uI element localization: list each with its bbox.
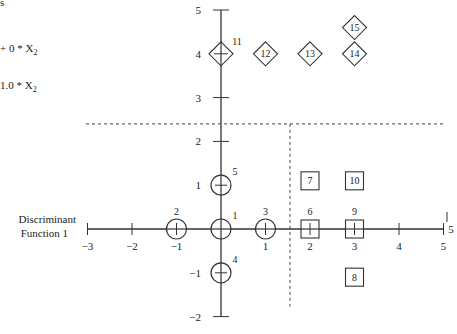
y-tick-label: 1	[196, 179, 202, 191]
formula-1: + 0 * X2	[0, 42, 37, 57]
right-edge-label: 5	[448, 223, 454, 235]
x-axis-title: Discriminant Function 1	[0, 212, 76, 240]
formula-1-text: + 0 * X	[0, 42, 33, 54]
formula-2-sub: 2	[33, 85, 37, 94]
point-label: 10	[350, 175, 360, 186]
x-axis-title-line1: Discriminant	[0, 212, 76, 226]
x-tick-label: −3	[82, 240, 94, 252]
formula-2: 1.0 * X2	[0, 79, 37, 94]
discriminant-plot: −3−2−11234554321−1−251234567891011121314…	[0, 0, 457, 334]
formula-fragment-top: s	[0, 0, 4, 8]
point-label: 1	[233, 210, 238, 221]
point-label: 7	[308, 175, 313, 186]
y-tick-label: 3	[196, 92, 202, 104]
x-tick-label: 3	[352, 240, 358, 252]
y-tick-label: −2	[189, 311, 201, 323]
formula-2-text: 1.0 * X	[0, 79, 33, 91]
point-label: 9	[352, 206, 357, 217]
x-tick-label: −2	[126, 240, 138, 252]
point-label: 4	[233, 254, 238, 265]
x-tick-label: 5	[441, 240, 447, 252]
point-label: 3	[263, 206, 268, 217]
y-tick-label: 2	[196, 135, 202, 147]
point-label: 12	[261, 48, 271, 59]
y-tick-label: 4	[196, 48, 202, 60]
point-label: 2	[174, 206, 179, 217]
x-axis-title-line2: Function 1	[0, 226, 76, 240]
x-tick-label: 1	[263, 240, 269, 252]
y-tick-label: 5	[196, 4, 202, 16]
point-label: 8	[352, 272, 357, 283]
point-label: 15	[350, 22, 360, 33]
x-tick-label: 4	[396, 240, 402, 252]
y-tick-label: −1	[189, 267, 201, 279]
point-label: 5	[233, 166, 238, 177]
point-label: 14	[350, 48, 360, 59]
x-tick-label: 2	[307, 240, 313, 252]
fragment-text: s	[0, 0, 4, 8]
x-tick-label: −1	[171, 240, 183, 252]
point-label: 6	[308, 206, 313, 217]
formula-1-sub: 2	[33, 48, 37, 57]
point-label: 11	[232, 36, 242, 47]
point-label: 13	[305, 48, 315, 59]
